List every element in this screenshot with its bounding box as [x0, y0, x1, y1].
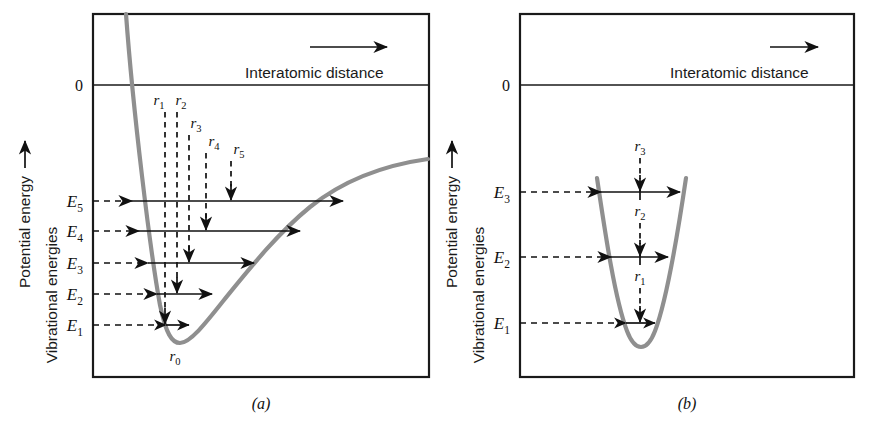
panel-a-E3-label: E3: [66, 254, 83, 276]
panel-a-r5-label: r5: [233, 141, 244, 160]
panel-b-r3-label: r3: [634, 138, 645, 157]
panel-a-r4-label: r4: [208, 133, 220, 152]
panel-a-r1-label: r1: [153, 92, 164, 111]
panel-b-x-axis-label: Interatomic distance: [670, 64, 809, 81]
panel-b-E3-label: E3: [493, 183, 510, 205]
panel-b-r1-label: r1: [634, 268, 645, 287]
panel-a-E4-label: E4: [66, 222, 83, 244]
panel-a-r2-label: r2: [175, 92, 186, 111]
panel-b-r2-label: r2: [634, 203, 645, 222]
panel-b-caption: (b): [678, 395, 697, 413]
panel-a-E1-label: E1: [66, 316, 83, 338]
panel-a-E2-label: E2: [66, 285, 83, 307]
panel-a-level-E4: E4: [66, 222, 300, 244]
panel-b-potential-curve: [597, 178, 686, 347]
panel-a-caption: (a): [252, 395, 271, 413]
panel-b-y-axis-label-potential: Potential energy: [443, 176, 460, 288]
panel-b-E1-label: E1: [493, 314, 510, 336]
panel-b-y-axis-label-vibrational: Vibrational energies: [470, 226, 487, 363]
panel-a: Potential energy Vibrational energies 0 …: [16, 14, 429, 413]
panel-b-level-E1: E1: [493, 314, 655, 336]
panel-a-r0-label: r0: [169, 348, 180, 367]
panel-a-level-E2: E2: [66, 285, 212, 307]
panel-a-y-axis-label-vibrational: Vibrational energies: [43, 226, 60, 363]
panel-a-distance-markers: [165, 112, 231, 324]
potential-energy-figure: Potential energy Vibrational energies 0 …: [0, 0, 875, 422]
figure-container: Potential energy Vibrational energies 0 …: [0, 0, 875, 422]
panel-a-level-E5: E5: [66, 192, 343, 214]
panel-b-E2-label: E2: [493, 248, 510, 270]
panel-a-r3-label: r3: [190, 115, 201, 134]
panel-a-y-axis-label-potential: Potential energy: [16, 176, 33, 288]
panel-a-E5-label: E5: [66, 192, 83, 214]
panel-b: Potential energy Vibrational energies 0 …: [443, 14, 854, 413]
panel-b-zero-label: 0: [502, 77, 510, 94]
panel-a-zero-label: 0: [75, 77, 83, 94]
panel-a-x-axis-label: Interatomic distance: [245, 64, 384, 81]
